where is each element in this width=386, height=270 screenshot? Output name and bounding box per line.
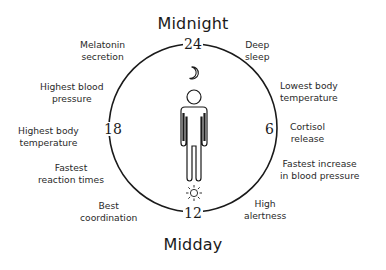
note-fastest-reaction-times: Fastestreaction times — [38, 162, 104, 186]
note-melatonin-secretion: Melatoninsecretion — [80, 39, 125, 63]
hour-12-label: 12 — [183, 206, 203, 220]
note-lowest-body-temperature: Lowest bodytemperature — [280, 80, 338, 104]
hour-18-label: 18 — [103, 122, 123, 136]
sun-icon — [186, 185, 202, 201]
hour-24-label: 24 — [183, 37, 203, 51]
midday-title: Midday — [0, 235, 386, 254]
note-cortisol-release: Cortisolrelease — [290, 121, 325, 145]
person-icon — [181, 90, 207, 181]
clock-circle — [109, 44, 277, 212]
moon-icon — [190, 67, 199, 79]
note-high-alertness: Highalertness — [244, 198, 286, 222]
note-best-coordination: Bestcoordination — [80, 200, 137, 224]
note-fastest-increase-blood-pressure: Fastest increasein blood pressure — [280, 158, 359, 182]
note-highest-body-temperature: Highest bodytemperature — [18, 125, 79, 149]
note-deep-sleep: Deepsleep — [245, 39, 269, 63]
hour-6-label: 6 — [264, 122, 275, 136]
note-highest-blood-pressure: Highest bloodpressure — [40, 81, 104, 105]
